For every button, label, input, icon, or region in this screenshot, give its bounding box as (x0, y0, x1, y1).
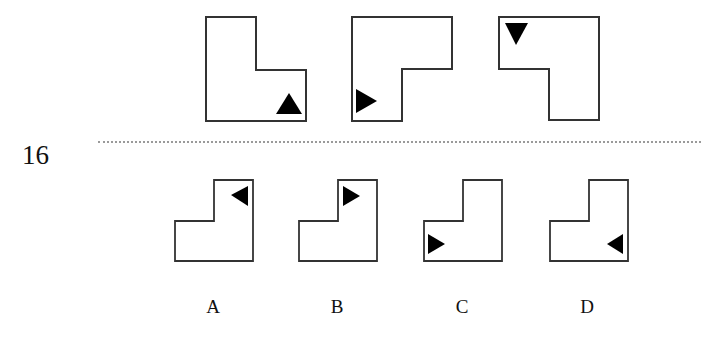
l-shape-outline (299, 180, 377, 261)
option-label-b[interactable]: B (322, 296, 352, 318)
option-figure-d[interactable] (548, 178, 630, 264)
option-label-a[interactable]: A (198, 296, 228, 318)
option-figure-c[interactable] (422, 178, 504, 264)
option-label-d[interactable]: D (572, 296, 602, 318)
option-figure-b[interactable] (297, 178, 379, 264)
question-number: 16 (22, 140, 49, 171)
stem-figure-1 (203, 15, 309, 125)
option-figure-a[interactable] (173, 178, 255, 264)
stem-figure-3 (497, 15, 603, 125)
dotted-divider (98, 141, 701, 143)
stem-figure-2 (349, 15, 455, 125)
option-label-c[interactable]: C (447, 296, 477, 318)
